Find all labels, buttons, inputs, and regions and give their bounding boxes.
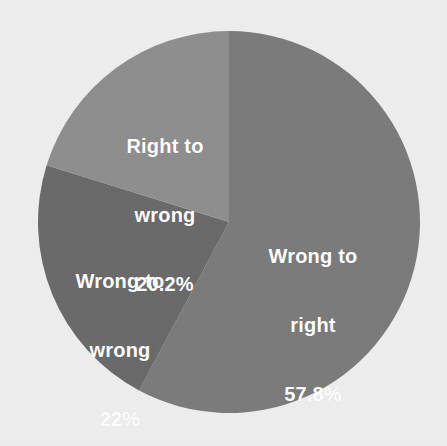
slice-value-wrong-to-right: 57.8% <box>243 383 383 406</box>
slice-label-line2: wrong <box>50 339 190 362</box>
pie-slice-label-wrong-to-right: Wrong to right 57.8% <box>243 199 383 446</box>
slice-label-line2: wrong <box>105 204 225 227</box>
slice-label-line2: right <box>243 314 383 337</box>
pie-slice-label-right-to-wrong: Right to wrong 20.2% <box>105 89 225 342</box>
slice-value-wrong-to-wrong: 22% <box>50 408 190 431</box>
slice-label-line1: Wrong to <box>243 245 383 268</box>
pie-chart-figure: Wrong to right 57.8% Wrong to wrong 22% … <box>0 0 447 446</box>
slice-value-right-to-wrong: 20.2% <box>105 273 225 296</box>
slice-label-line1: Right to <box>105 135 225 158</box>
